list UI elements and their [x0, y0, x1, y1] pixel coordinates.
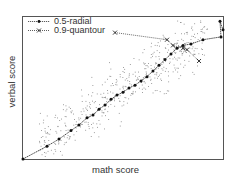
x-axis-label: math score	[92, 164, 139, 175]
series-0.5-radial	[22, 20, 225, 161]
series-0.9-quantour	[113, 31, 201, 63]
plot-frame	[23, 17, 224, 160]
scatter-points	[39, 21, 208, 157]
plot-area	[0, 0, 235, 179]
legend	[28, 20, 50, 32]
legend-dot-marker-icon	[38, 20, 41, 23]
legend-label-quantour: 0.9-quantour	[54, 25, 105, 35]
chart: 0.5-radial 0.9-quantour verbal score mat…	[0, 0, 235, 179]
y-axis-label: verbal score	[6, 47, 17, 117]
